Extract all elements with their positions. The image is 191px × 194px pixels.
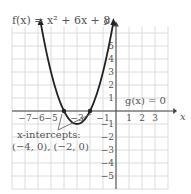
graph: −7−6−5−3−112312345−1−2−3−4−5 f(x) = x² +… bbox=[0, 0, 191, 194]
x-tick-label: −5 bbox=[44, 113, 58, 123]
y-tick-label: 2 bbox=[108, 80, 114, 90]
y-tick-label: −4 bbox=[101, 158, 115, 168]
x-tick-label: −6 bbox=[31, 113, 45, 123]
x-tick-label: 3 bbox=[152, 113, 158, 123]
annotation-intercepts-values: (−4, 0), (−2, 0) bbox=[12, 141, 89, 152]
y-tick-label: −2 bbox=[101, 132, 114, 142]
y-tick-label: 3 bbox=[108, 67, 114, 77]
curve-arrow-right-icon bbox=[110, 18, 116, 25]
y-axis-label: y bbox=[103, 14, 110, 25]
grid bbox=[12, 27, 168, 190]
y-tick-label: −5 bbox=[101, 171, 115, 181]
x-tick-label: −7 bbox=[18, 113, 32, 123]
x-axis-label: x bbox=[180, 111, 186, 122]
x-tick-label: 1 bbox=[126, 113, 132, 123]
y-tick-label: 4 bbox=[108, 54, 114, 64]
x-tick-label: 2 bbox=[139, 113, 145, 123]
g-label: g(x) = 0 bbox=[125, 95, 166, 106]
function-label: f(x) = x² + 6x + 8 bbox=[12, 14, 110, 27]
y-tick-label: 1 bbox=[108, 93, 114, 103]
intercept-point bbox=[88, 109, 92, 113]
intercept-point bbox=[62, 109, 66, 113]
y-tick-label: −1 bbox=[101, 119, 114, 129]
annotation-intercepts-title: x-intercepts: bbox=[17, 129, 81, 140]
y-tick-label: −3 bbox=[101, 145, 115, 155]
x-axis-arrow-icon bbox=[173, 108, 177, 114]
